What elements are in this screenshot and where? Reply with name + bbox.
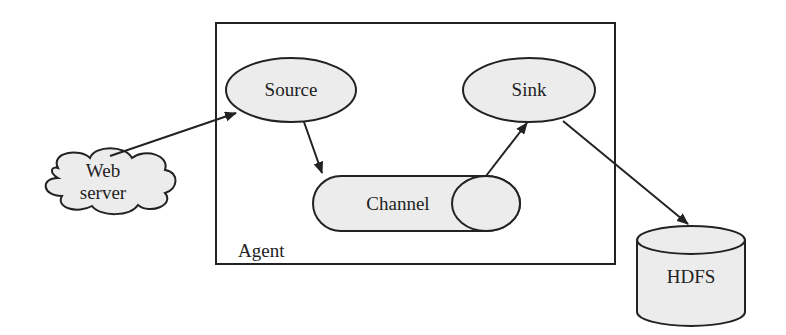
agent-label: Agent bbox=[238, 240, 285, 261]
web-server-label-line1: Web bbox=[86, 160, 120, 181]
arrow-sink-to-hdfs bbox=[563, 121, 688, 224]
channel-node: Channel bbox=[313, 176, 520, 231]
flume-architecture-diagram: Agent Web server Source Sink Channel HDF… bbox=[0, 0, 786, 335]
sink-node: Sink bbox=[463, 58, 595, 122]
source-node: Source bbox=[226, 58, 356, 122]
web-server-label-line2: server bbox=[80, 182, 127, 203]
arrow-channel-to-sink bbox=[486, 123, 527, 176]
hdfs-cylinder: HDFS bbox=[637, 226, 745, 326]
source-label: Source bbox=[265, 79, 318, 100]
sink-label: Sink bbox=[512, 79, 547, 100]
arrow-source-to-channel bbox=[304, 122, 322, 173]
channel-label: Channel bbox=[366, 193, 429, 214]
arrow-webserver-to-source bbox=[110, 113, 236, 156]
web-server-cloud: Web server bbox=[46, 148, 176, 214]
hdfs-label: HDFS bbox=[667, 266, 716, 287]
